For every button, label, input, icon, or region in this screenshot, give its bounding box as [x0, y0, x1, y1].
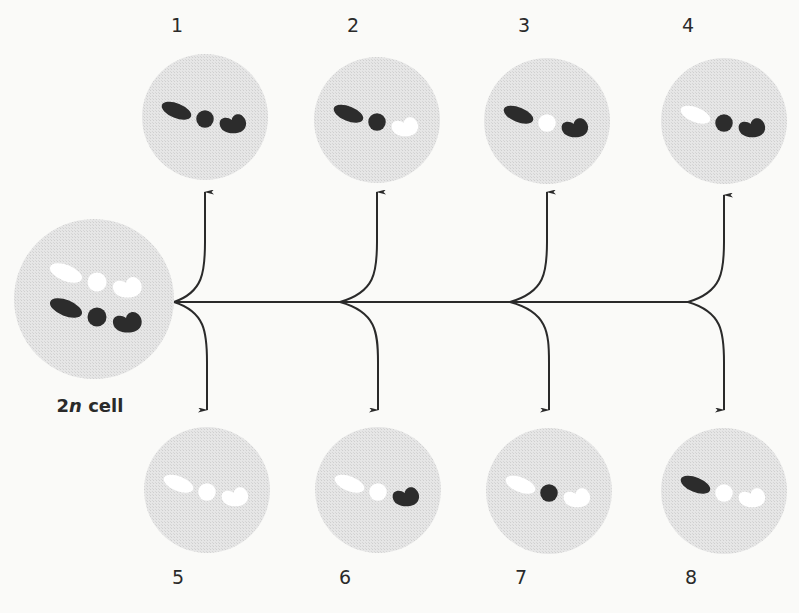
parent-cell-2n: [14, 219, 174, 379]
label-2n-number: 2: [57, 395, 70, 416]
gamete-label-7: 7: [515, 566, 527, 588]
arrow-up-4: [688, 195, 724, 302]
gamete-label-1: 1: [171, 14, 183, 36]
gamete-cell-1: [142, 54, 268, 180]
gamete-label-4: 4: [682, 14, 694, 36]
gamete-6-round-chromosome: [369, 483, 386, 500]
parent-cell-label: 2n cell: [57, 395, 124, 416]
gamete-3-round-chromosome: [538, 114, 555, 131]
gamete-cell-8: [661, 428, 787, 554]
meiosis-diagram: 2n cell 12345678: [0, 0, 799, 613]
diagram-canvas: [0, 0, 799, 613]
parent-upper-round-chromosome: [88, 273, 107, 292]
gamete-cell-3: [484, 58, 610, 184]
label-2n-italic: n: [69, 395, 82, 416]
gamete-4-round-chromosome: [715, 114, 732, 131]
cells-group: [14, 54, 787, 554]
gamete-label-5: 5: [172, 566, 184, 588]
arrow-up-2: [340, 192, 377, 302]
arrow-down-2: [340, 302, 378, 410]
gamete-5-round-chromosome: [198, 483, 215, 500]
gamete-label-3: 3: [518, 14, 530, 36]
gamete-2-round-chromosome: [368, 113, 385, 130]
gamete-8-round-chromosome: [715, 484, 732, 501]
arrow-down-3: [510, 302, 549, 410]
arrow-up-3: [510, 192, 547, 302]
gamete-label-6: 6: [339, 566, 351, 588]
segregation-arrows: [174, 192, 724, 410]
gamete-label-2: 2: [347, 14, 359, 36]
gamete-cell-4: [661, 58, 787, 184]
gamete-cell-6: [315, 427, 441, 553]
parent-cell-body: [14, 219, 174, 379]
gamete-cell-7: [486, 428, 612, 554]
arrow-down-4: [688, 302, 724, 410]
gamete-label-8: 8: [685, 566, 697, 588]
label-2n-suffix: cell: [82, 395, 123, 416]
gamete-7-round-chromosome: [540, 484, 557, 501]
gamete-1-round-chromosome: [196, 110, 213, 127]
arrow-up-1: [174, 192, 205, 302]
parent-lower-round-chromosome: [88, 308, 107, 327]
arrow-down-1: [174, 302, 207, 410]
gamete-cell-5: [144, 427, 270, 553]
gamete-cell-2: [314, 57, 440, 183]
